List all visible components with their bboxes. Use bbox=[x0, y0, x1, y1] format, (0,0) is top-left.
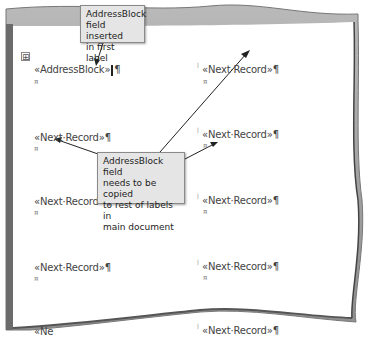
pilcrow-mark: ¶ bbox=[105, 132, 111, 143]
callout-line: field inserted bbox=[86, 20, 139, 42]
column-marker: ǀ bbox=[197, 61, 199, 68]
end-of-cell-mark: ¤ bbox=[34, 78, 38, 86]
next-record-field: «Next·Record» bbox=[202, 129, 273, 140]
text-cursor bbox=[111, 65, 113, 76]
document-page-excerpt: ⊞ «AddressBlock»¶ ¤ «Next·Record»¶ ¤ «Ne… bbox=[0, 0, 370, 344]
next-record-field: «Next·Record» bbox=[202, 325, 273, 336]
pilcrow-mark: ¶ bbox=[273, 195, 279, 206]
end-of-cell-mark: ¤ bbox=[203, 208, 207, 216]
column-marker: ǀ bbox=[197, 322, 199, 329]
column-marker: ǀ bbox=[197, 258, 199, 265]
end-of-cell-mark: ¤ bbox=[203, 78, 207, 86]
pilcrow-mark: ¶ bbox=[273, 64, 279, 75]
callout-addressblock-inserted: AddressBlock field inserted in first lab… bbox=[80, 5, 145, 43]
next-record-field: «Next·Record» bbox=[202, 261, 273, 272]
label-cell-9-partial[interactable]: «Ne bbox=[34, 326, 53, 337]
label-cell-8[interactable]: «Next·Record»¶ bbox=[202, 261, 279, 272]
callout-line: AddressBlock field bbox=[103, 156, 179, 178]
end-of-cell-mark: ¤ bbox=[203, 142, 207, 150]
end-of-cell-mark: ¤ bbox=[34, 145, 38, 153]
next-record-field: «Next·Record» bbox=[34, 196, 105, 207]
end-of-cell-mark: ¤ bbox=[34, 275, 38, 283]
callout-copy-to-rest: AddressBlock field needs to be copied to… bbox=[97, 152, 185, 204]
pilcrow-mark: ¶ bbox=[114, 64, 120, 75]
label-cell-1[interactable]: «AddressBlock»¶ bbox=[34, 64, 120, 76]
end-of-cell-mark: ¤ bbox=[34, 209, 38, 217]
callout-line: needs to be copied bbox=[103, 178, 179, 200]
label-cell-3[interactable]: «Next·Record»¶ bbox=[34, 132, 111, 143]
addressblock-field: «AddressBlock» bbox=[34, 64, 110, 75]
pilcrow-mark: ¶ bbox=[105, 262, 111, 273]
label-cell-7[interactable]: «Next·Record»¶ bbox=[34, 262, 111, 273]
next-record-field: «Next·Record» bbox=[202, 195, 273, 206]
column-marker: ǀ bbox=[197, 192, 199, 199]
callout-line: main document bbox=[103, 222, 179, 233]
label-cell-4[interactable]: «Next·Record»¶ bbox=[202, 129, 279, 140]
callout-line: AddressBlock bbox=[86, 9, 139, 20]
callout-line: to rest of labels in bbox=[103, 200, 179, 222]
label-cell-10-partial[interactable]: «Next·Record»¶ bbox=[202, 325, 279, 336]
next-record-field: «Next·Record» bbox=[202, 64, 273, 75]
column-marker: ǀ bbox=[197, 126, 199, 133]
table-move-handle-icon[interactable]: ⊞ bbox=[21, 52, 30, 61]
pilcrow-mark: ¶ bbox=[273, 129, 279, 140]
label-cell-2[interactable]: «Next·Record»¶ bbox=[202, 64, 279, 75]
next-record-field: «Next·Record» bbox=[34, 132, 105, 143]
callout-line: in first label bbox=[86, 42, 139, 64]
next-record-field: «Ne bbox=[34, 326, 53, 337]
pilcrow-mark: ¶ bbox=[273, 325, 279, 336]
pilcrow-mark: ¶ bbox=[273, 261, 279, 272]
torn-page-background bbox=[0, 0, 370, 344]
next-record-field: «Next·Record» bbox=[34, 262, 105, 273]
label-cell-6[interactable]: «Next·Record»¶ bbox=[202, 195, 279, 206]
end-of-cell-mark: ¤ bbox=[203, 274, 207, 282]
